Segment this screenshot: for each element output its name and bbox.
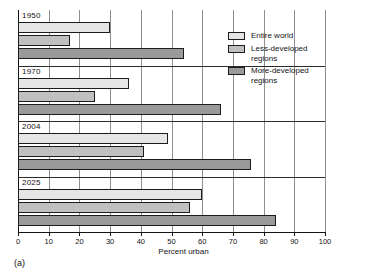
legend-label-less: Less-developed regions: [251, 44, 358, 64]
panel-letter: (a): [14, 258, 25, 269]
legend-label-more: More-developed regions: [251, 66, 358, 86]
x-tick-label-90: 90: [290, 237, 298, 246]
x-tick-100: [325, 232, 326, 236]
legend-swatch-entire: [228, 32, 245, 40]
x-tick-label-30: 30: [106, 237, 114, 246]
x-tick-70: [233, 232, 234, 236]
legend-item-more: More-developed regions: [228, 66, 358, 86]
group-separator-2004: [18, 121, 325, 122]
x-tick-10: [49, 232, 50, 236]
bar-2004-entire-world: [18, 133, 168, 144]
x-tick-label-80: 80: [259, 237, 267, 246]
bar-group-2025: 2025: [18, 177, 325, 233]
x-tick-30: [110, 232, 111, 236]
x-axis-label: Percent urban: [0, 247, 367, 257]
group-separator-2025: [18, 177, 325, 178]
bar-1950-entire-world: [18, 22, 110, 33]
x-tick-80: [264, 232, 265, 236]
x-tick-label-40: 40: [137, 237, 145, 246]
group-label-2025: 2025: [22, 178, 41, 188]
bar-2025-more-developed-regions: [18, 215, 276, 226]
bar-2004-less-developed-regions: [18, 146, 144, 157]
bar-1970-less-developed-regions: [18, 91, 95, 102]
group-label-2004: 2004: [22, 122, 41, 132]
x-tick-label-10: 10: [45, 237, 53, 246]
bar-group-2004: 2004: [18, 121, 325, 177]
group-label-1950: 1950: [22, 11, 41, 21]
bar-1970-more-developed-regions: [18, 104, 221, 115]
x-tick-60: [202, 232, 203, 236]
legend-swatch-more: [228, 67, 245, 75]
bar-1970-entire-world: [18, 78, 129, 89]
x-tick-label-50: 50: [167, 237, 175, 246]
x-tick-40: [141, 232, 142, 236]
legend-swatch-less: [228, 45, 245, 53]
x-tick-label-60: 60: [198, 237, 206, 246]
x-tick-label-70: 70: [229, 237, 237, 246]
x-tick-50: [172, 232, 173, 236]
x-tick-label-20: 20: [75, 237, 83, 246]
legend-item-less: Less-developed regions: [228, 44, 358, 64]
bar-2004-more-developed-regions: [18, 159, 251, 170]
legend-label-entire: Entire world: [251, 31, 358, 41]
legend-item-entire: Entire world: [228, 31, 358, 42]
x-tick-label-100: 100: [319, 237, 332, 246]
x-tick-20: [79, 232, 80, 236]
x-tick-90: [294, 232, 295, 236]
chart-legend: Entire worldLess-developed regionsMore-d…: [228, 31, 358, 88]
bar-1950-more-developed-regions: [18, 48, 184, 59]
bar-1950-less-developed-regions: [18, 35, 70, 46]
x-tick-label-0: 0: [16, 237, 20, 246]
x-tick-0: [18, 232, 19, 236]
figure-panel-a: 1950197020042025 0102030405060708090100 …: [0, 0, 367, 274]
bar-2025-entire-world: [18, 189, 202, 200]
bar-2025-less-developed-regions: [18, 202, 190, 213]
group-label-1970: 1970: [22, 67, 41, 77]
